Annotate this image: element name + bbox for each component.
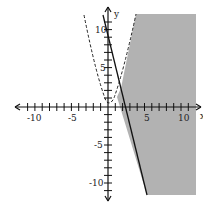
x-tick-label: -10: [27, 113, 42, 123]
y-axis: [104, 7, 112, 201]
x-tick-label: 5: [144, 113, 150, 123]
y-tick-label: 5: [100, 63, 106, 73]
shaded-region: [117, 14, 196, 195]
y-tick-label: -5: [94, 140, 103, 150]
y-tick-label: -10: [89, 178, 104, 188]
x-axis-label: x: [200, 111, 203, 121]
x-tick-label: -5: [68, 113, 77, 123]
inequality-graph: y x -10 -5 5 10 10 5 -5 -10: [0, 0, 203, 205]
x-tick-label: 10: [178, 113, 190, 123]
y-axis-label: y: [113, 9, 120, 19]
y-tick-label: 10: [95, 25, 107, 35]
